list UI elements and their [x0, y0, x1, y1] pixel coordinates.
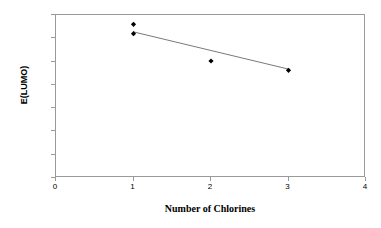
x-axis-tick-mark	[55, 177, 56, 181]
x-axis-tick-mark	[210, 177, 211, 181]
x-axis-tick-label: 4	[350, 182, 380, 191]
x-axis-tick-mark	[365, 177, 366, 181]
data-point-marker	[131, 22, 136, 27]
x-axis-tick-mark	[133, 177, 134, 181]
x-axis-tick-label: 0	[40, 182, 70, 191]
chart-figure: E(LUMO) 0.000.020.040.060.080.100.120.14…	[0, 0, 381, 228]
y-axis-tick-group: 0.000.020.040.060.080.100.120.14	[0, 0, 52, 228]
x-axis-tick-label: 2	[195, 182, 225, 191]
x-axis-title: Number of Chlorines	[55, 203, 365, 214]
data-point-marker	[208, 58, 213, 63]
x-axis-tick-label: 3	[273, 182, 303, 191]
plot-area	[55, 14, 365, 177]
plot-svg	[56, 15, 366, 178]
x-axis-tick-label: 1	[118, 182, 148, 191]
x-axis-tick-mark	[288, 177, 289, 181]
